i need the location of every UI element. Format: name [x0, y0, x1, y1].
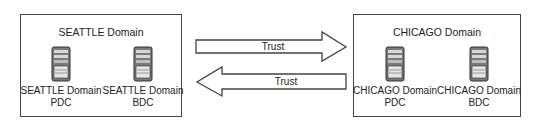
- server-tower-icon: [353, 46, 437, 82]
- chicago-domain-box: CHICAGO Domain CHICAGO Domain PDC: [353, 14, 521, 117]
- server-tower-icon: [437, 46, 521, 82]
- server-label-line2: BDC: [437, 97, 521, 109]
- trust-label-right: Trust: [243, 41, 303, 52]
- server-label-line1: CHICAGO Domain: [353, 85, 437, 97]
- chicago-pdc-server: CHICAGO Domain PDC: [353, 46, 437, 109]
- trust-label-left: Trust: [256, 76, 316, 87]
- domain-title: CHICAGO Domain: [354, 26, 520, 38]
- chicago-bdc-server: CHICAGO Domain BDC: [437, 46, 521, 109]
- server-label-line1: CHICAGO Domain: [437, 85, 521, 97]
- server-label-line2: PDC: [353, 97, 437, 109]
